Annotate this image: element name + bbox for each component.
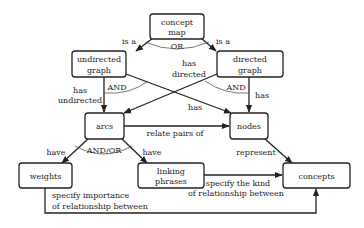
label-specify-kind-1: specify the kind <box>206 179 270 188</box>
node-label: arcs <box>96 122 113 131</box>
edge-arcs-weights <box>62 139 88 163</box>
node-label: undirected <box>77 55 121 64</box>
label-has-undirected-2: undirected <box>58 96 102 105</box>
node-undirected-graph: undirected graph <box>72 51 126 77</box>
node-label: phrases <box>155 177 187 186</box>
label-specify-importance-1: specify importance <box>52 191 130 200</box>
label-is-a-right: is a <box>216 37 230 46</box>
label-and-or: AND/OR <box>86 146 122 155</box>
concept-map-diagram: concept map undirected graph directed gr… <box>0 0 364 228</box>
node-label: concept <box>161 18 194 27</box>
label-has-undirected-1: has <box>73 86 87 95</box>
node-label: map <box>168 28 185 37</box>
label-has-directed-2: directed <box>172 70 206 79</box>
label-represent: represent <box>236 148 276 157</box>
label-have-right: have <box>142 148 161 157</box>
node-label: concepts <box>298 172 334 181</box>
label-has-right: has <box>255 91 269 100</box>
node-concepts: concepts <box>283 163 350 188</box>
label-and-right: AND <box>225 83 245 92</box>
node-label: graph <box>87 66 111 75</box>
node-label: linking <box>157 167 185 176</box>
label-specify-importance-2: of relationship between <box>52 202 148 211</box>
label-and-left: AND <box>106 83 126 92</box>
node-weights: weights <box>19 163 72 188</box>
edge-undirected-nodes <box>126 74 231 113</box>
node-linking-phrases: linking phrases <box>138 163 204 188</box>
node-nodes: nodes <box>230 113 268 139</box>
label-or: OR <box>171 42 185 51</box>
label-relate-pairs-of: relate pairs of <box>146 129 204 138</box>
node-label: graph <box>238 66 262 75</box>
node-concept-map: concept map <box>150 14 204 39</box>
node-directed-graph: directed graph <box>217 51 283 77</box>
node-label: directed <box>233 55 267 64</box>
label-is-a-left: is a <box>122 37 136 46</box>
node-label: weights <box>30 172 62 181</box>
node-label: nodes <box>237 122 261 131</box>
node-arcs: arcs <box>85 113 124 139</box>
label-have-left: have <box>46 148 65 157</box>
label-specify-kind-2: of relationship between <box>188 189 284 198</box>
label-has-directed-1: has <box>182 59 196 68</box>
edge-directed-arcs <box>124 74 217 113</box>
label-has-cross: has <box>188 103 202 112</box>
